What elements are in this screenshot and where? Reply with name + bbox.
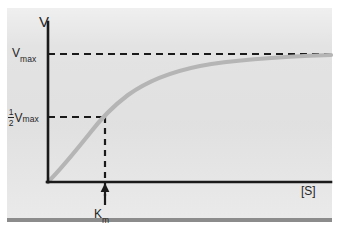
- figure-container: V [S] Vmax 1 2 Vmax Km: [0, 0, 339, 235]
- fraction-numerator: 1: [9, 108, 14, 117]
- fraction-denominator: 2: [9, 119, 14, 128]
- km-label-subscript: m: [102, 215, 109, 225]
- half-vmax-label-subscript: max: [23, 115, 39, 124]
- km-label-main: K: [94, 207, 102, 221]
- x-axis-label: [S]: [301, 185, 316, 197]
- vmax-label: Vmax: [12, 47, 36, 62]
- vmax-label-subscript: max: [20, 54, 36, 64]
- one-half-fraction: 1 2: [8, 108, 14, 127]
- km-label: Km: [94, 208, 109, 223]
- half-vmax-label: 1 2 Vmax: [8, 108, 39, 127]
- michaelis-menten-curve: [48, 55, 331, 182]
- km-arrow-icon: [101, 183, 110, 205]
- half-vmax-label-main: V: [15, 112, 23, 124]
- plot-svg: [0, 0, 339, 235]
- vmax-label-main: V: [12, 46, 20, 60]
- y-axis-label: V: [39, 14, 49, 29]
